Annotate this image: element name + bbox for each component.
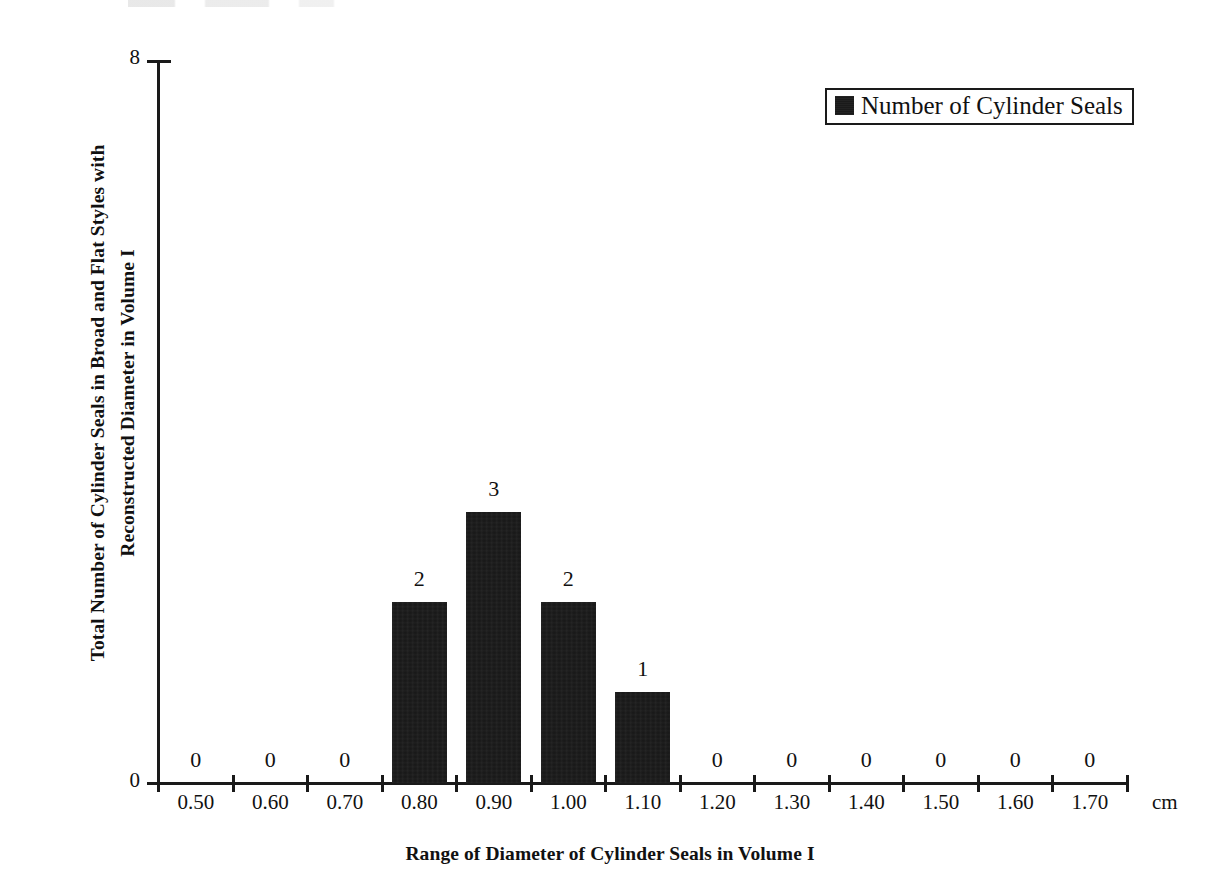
bar-value-label: 0	[1045, 747, 1135, 773]
bar	[615, 692, 670, 782]
x-axis-unit-label: cm	[1152, 790, 1178, 815]
bar	[466, 512, 521, 782]
bar-value-label: 3	[449, 476, 539, 502]
bar-value-label: 0	[300, 747, 390, 773]
x-axis-tick-label: 1.70	[1045, 790, 1135, 815]
bar	[541, 602, 596, 782]
y-axis-line	[157, 60, 160, 785]
bar	[392, 602, 447, 782]
bar-value-label: 2	[523, 566, 613, 592]
y-axis-title-line-2: Reconstructed Diameter in Volume I	[113, 73, 143, 733]
y-axis-tick-label-max: 8	[100, 45, 140, 70]
y-axis-tick-max	[147, 60, 171, 63]
bar-value-label: 1	[598, 656, 688, 682]
legend-swatch-icon	[835, 96, 854, 115]
y-axis-title: Total Number of Cylinder Seals in Broad …	[83, 73, 143, 733]
scan-artifact	[128, 0, 458, 7]
y-axis-title-line-1: Total Number of Cylinder Seals in Broad …	[83, 73, 113, 733]
y-axis-tick-label-min: 0	[100, 768, 140, 793]
x-axis-tick-end	[1126, 775, 1129, 792]
bar-chart-figure: Total Number of Cylinder Seals in Broad …	[0, 0, 1220, 888]
chart-legend: Number of Cylinder Seals	[825, 88, 1134, 125]
x-axis-title: Range of Diameter of Cylinder Seals in V…	[0, 843, 1220, 865]
legend-entry-label: Number of Cylinder Seals	[861, 93, 1123, 118]
bar-value-label: 2	[374, 566, 464, 592]
